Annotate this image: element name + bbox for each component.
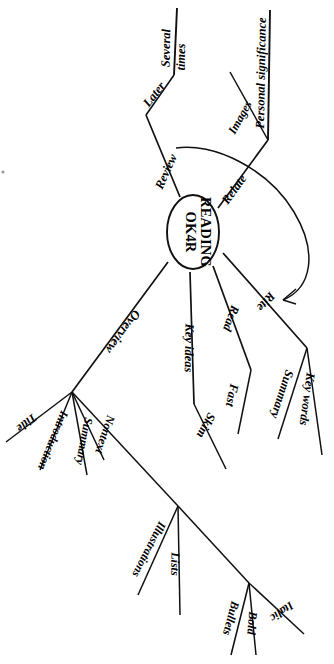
center-node-label-line1: OK4R (183, 211, 199, 252)
mind-map-svg: OK4R READING Overview Title Introduction… (0, 0, 334, 664)
label-key-words[interactable]: Key words (296, 371, 317, 427)
center-node-label-line2: READING (198, 197, 214, 267)
label-skim[interactable]: Skim (194, 411, 219, 441)
scan-artifact-speck (1, 170, 4, 173)
branch-line-emphasis (178, 506, 249, 583)
label-fast[interactable]: Fast (223, 382, 242, 409)
diagram-canvas: OK4R READING Overview Title Introduction… (0, 0, 334, 664)
label-overview[interactable]: Overview (102, 307, 144, 356)
label-personal-significance[interactable]: Personal significance (253, 17, 269, 129)
label-several-times-line2: times (174, 43, 188, 70)
label-bold[interactable]: Bold (244, 610, 260, 636)
label-relate[interactable]: Relate (218, 172, 249, 208)
label-title[interactable]: Title (13, 411, 40, 436)
label-later[interactable]: Later (139, 79, 168, 110)
label-images[interactable]: Images (225, 98, 255, 137)
label-read[interactable]: Read (220, 303, 243, 334)
label-italic[interactable]: Italic (267, 598, 298, 626)
label-introduction[interactable]: Introduction (35, 408, 72, 473)
label-key-ideas[interactable]: Key ideas (182, 322, 197, 372)
label-lists[interactable]: Lists (168, 551, 182, 576)
label-bullets[interactable]: Bullets (220, 599, 243, 637)
label-several-times-line1[interactable]: Several (159, 28, 174, 67)
branch-line-fast (238, 370, 251, 434)
label-summary-overview[interactable]: Summary (73, 416, 96, 466)
